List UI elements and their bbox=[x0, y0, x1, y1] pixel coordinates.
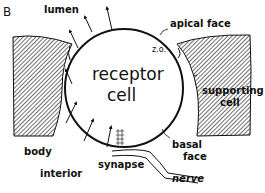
receptor-cell-diagram: B lumen apical face z.o. receptor cell s… bbox=[0, 0, 265, 193]
left-supporting-tissue bbox=[13, 36, 72, 136]
label-receptor: receptor bbox=[92, 64, 164, 84]
label-cell: cell bbox=[107, 85, 136, 105]
apical-leader bbox=[160, 29, 168, 35]
label-zo: z.o. bbox=[152, 45, 166, 54]
label-nerve: nerve bbox=[172, 173, 204, 184]
label-basal: basal bbox=[172, 139, 202, 150]
label-supporting-cell: cell bbox=[220, 97, 240, 108]
label-body: body bbox=[24, 146, 52, 157]
label-apical-face: apical face bbox=[170, 18, 231, 29]
label-supporting: supporting bbox=[202, 85, 264, 96]
zo-junction bbox=[178, 48, 180, 58]
panel-letter: B bbox=[3, 5, 11, 19]
label-lumen: lumen bbox=[44, 4, 79, 15]
label-face: face bbox=[183, 151, 207, 162]
label-synapse: synapse bbox=[98, 159, 144, 170]
label-interior: interior bbox=[40, 168, 82, 179]
